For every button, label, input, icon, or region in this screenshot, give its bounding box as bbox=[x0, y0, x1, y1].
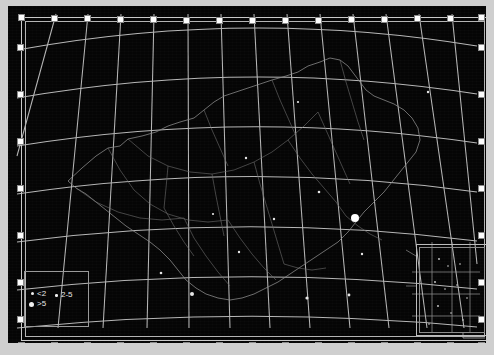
selection-handle-top[interactable] bbox=[282, 17, 289, 24]
selection-handle-bottom[interactable] bbox=[447, 342, 454, 343]
selection-handle-left[interactable] bbox=[17, 279, 24, 286]
selection-handle-top[interactable] bbox=[18, 14, 25, 21]
selection-handle-bottom[interactable] bbox=[18, 342, 25, 343]
selection-handle-bottom[interactable] bbox=[282, 342, 289, 343]
legend-symbol-large bbox=[29, 302, 34, 307]
selection-handle-right[interactable] bbox=[478, 138, 485, 145]
selection-handle-top[interactable] bbox=[414, 15, 421, 22]
selection-handle-left[interactable] bbox=[17, 91, 24, 98]
selection-handle-bottom[interactable] bbox=[381, 342, 388, 343]
selection-handle-bottom[interactable] bbox=[117, 342, 124, 343]
inset-map-neatline bbox=[419, 247, 485, 333]
selection-handle-left[interactable] bbox=[17, 316, 24, 323]
legend-symbol-small bbox=[31, 292, 34, 295]
selection-handle-top[interactable] bbox=[249, 17, 256, 24]
selection-handle-bottom[interactable] bbox=[51, 342, 58, 343]
selection-handle-bottom[interactable] bbox=[315, 342, 322, 343]
map-canvas[interactable]: <2 2-5 >5 bbox=[8, 6, 486, 343]
selection-handle-top[interactable] bbox=[183, 17, 190, 24]
selection-handle-right[interactable] bbox=[478, 316, 485, 323]
selection-handle-top[interactable] bbox=[150, 16, 157, 23]
selection-handle-left[interactable] bbox=[17, 44, 24, 51]
legend-label-0: <2 bbox=[37, 290, 46, 298]
selection-handle-bottom[interactable] bbox=[84, 342, 91, 343]
selection-handle-top[interactable] bbox=[348, 16, 355, 23]
selection-handle-top[interactable] bbox=[216, 17, 223, 24]
selection-handle-right[interactable] bbox=[478, 44, 485, 51]
selection-handle-left[interactable] bbox=[17, 185, 24, 192]
selection-handle-bottom[interactable] bbox=[348, 342, 355, 343]
selection-handle-top[interactable] bbox=[117, 16, 124, 23]
selection-handle-right[interactable] bbox=[478, 185, 485, 192]
legend-symbol-medium bbox=[55, 294, 58, 297]
selection-handle-top[interactable] bbox=[51, 15, 58, 22]
selection-handle-top[interactable] bbox=[315, 17, 322, 24]
map-legend[interactable]: <2 2-5 >5 bbox=[24, 271, 89, 327]
selection-handle-left[interactable] bbox=[17, 138, 24, 145]
selection-handle-top[interactable] bbox=[381, 16, 388, 23]
selection-handle-right[interactable] bbox=[478, 91, 485, 98]
selection-handle-right[interactable] bbox=[478, 232, 485, 239]
selection-handle-top[interactable] bbox=[478, 14, 485, 21]
selection-handle-bottom[interactable] bbox=[216, 342, 223, 343]
selection-handle-top[interactable] bbox=[447, 15, 454, 22]
selection-handle-bottom[interactable] bbox=[150, 342, 157, 343]
selection-handle-bottom[interactable] bbox=[414, 342, 421, 343]
map-layout-page: <2 2-5 >5 bbox=[0, 0, 494, 355]
legend-label-2: >5 bbox=[37, 300, 46, 308]
selection-handle-bottom[interactable] bbox=[249, 342, 256, 343]
selection-handle-right[interactable] bbox=[478, 279, 485, 286]
legend-label-1: 2-5 bbox=[61, 291, 73, 299]
selection-handle-bottom[interactable] bbox=[183, 342, 190, 343]
selection-handle-bottom[interactable] bbox=[478, 342, 485, 343]
selection-handle-left[interactable] bbox=[17, 232, 24, 239]
selection-handle-top[interactable] bbox=[84, 15, 91, 22]
